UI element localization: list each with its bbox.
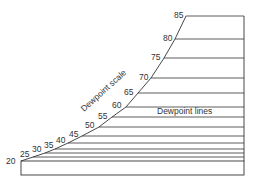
tick-label-85: 85: [174, 10, 184, 20]
tick-label-20: 20: [6, 156, 16, 166]
tick-label-80: 80: [163, 33, 173, 43]
dewpoint-diagram: 8580757065605550454035302520 Dewpoint sc…: [0, 0, 256, 189]
tick-label-35: 35: [44, 140, 54, 150]
tick-label-55: 55: [98, 111, 108, 121]
tick-label-25: 25: [20, 149, 30, 159]
tick-label-40: 40: [56, 135, 66, 145]
tick-label-65: 65: [124, 87, 134, 97]
tick-label-60: 60: [112, 100, 122, 110]
tick-label-30: 30: [32, 144, 42, 154]
tick-label-70: 70: [139, 72, 149, 82]
dewpoint-lines-label: Dewpoint lines: [157, 106, 212, 116]
tick-label-75: 75: [151, 52, 161, 62]
tick-label-50: 50: [85, 120, 95, 130]
tick-label-45: 45: [69, 129, 79, 139]
bottom-base-rectangle: [21, 161, 244, 175]
